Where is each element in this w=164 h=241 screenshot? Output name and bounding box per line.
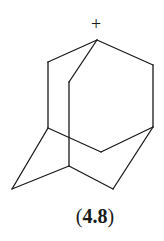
- compound-number: 4.8: [83, 205, 108, 227]
- label-close-paren: ): [108, 205, 115, 227]
- positive-charge-icon: +: [91, 15, 101, 33]
- label-open-paren: (: [76, 205, 83, 227]
- bond-apex-upper_right: [97, 40, 153, 65]
- bond-inner_bottom-bottom_right: [69, 166, 113, 189]
- bond-far_left-inner_bottom: [12, 166, 69, 189]
- bond-lines: [12, 40, 153, 189]
- compound-label: (4.8): [0, 205, 164, 228]
- bond-left_mid-bottom_center: [48, 128, 101, 152]
- bond-left_mid-far_left: [12, 128, 48, 189]
